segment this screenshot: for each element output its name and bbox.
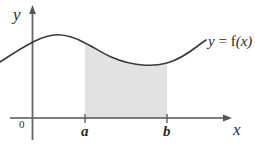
function-label-arg: (x)	[236, 33, 253, 49]
origin-label: 0	[19, 119, 25, 130]
y-axis-arrowhead	[29, 5, 36, 14]
y-axis-label: y	[13, 6, 21, 23]
tick-label-b: b	[163, 124, 171, 139]
figure-canvas: y x 0 a b y = f(x)	[0, 0, 255, 144]
plot-svg	[0, 0, 255, 144]
function-label-equals: =	[215, 33, 231, 49]
tick-label-a: a	[81, 124, 89, 139]
x-axis-arrowhead	[223, 115, 232, 122]
shaded-area-under-curve	[85, 43, 167, 118]
function-label-y: y	[208, 33, 215, 49]
function-label: y = f(x)	[208, 34, 252, 49]
x-axis-label: x	[233, 121, 241, 138]
